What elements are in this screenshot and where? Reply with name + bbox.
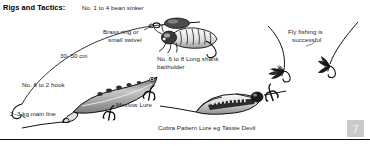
dry-fly-illustration	[318, 22, 358, 78]
label-main-line: 2–3 kg main line	[10, 110, 56, 118]
label-brass-ring-line1: Brass ring or	[103, 28, 139, 36]
label-brass-ring-line2: small swivel	[108, 36, 142, 44]
cobra-lure-illustration	[160, 83, 286, 115]
footer-rule	[0, 139, 370, 140]
label-cobra-lure: Cobra Pattern Lure eg Tassie Devil	[158, 124, 256, 132]
label-baitholder-line1: No. 6 to 8 Long shank	[157, 55, 219, 63]
label-leader-length: 30–50 cm	[60, 52, 88, 60]
page-number-badge: 7	[347, 120, 364, 137]
label-fly-fishing-line2: successful	[292, 36, 321, 44]
label-baitholder-line2: baitholder	[157, 63, 185, 71]
rigs-and-tactics-figure: Rigs and Tactics:	[0, 0, 370, 146]
label-bean-sinker: No. 1 to 4 bean sinker	[82, 4, 144, 12]
label-fly-fishing-line1: Fly fishing is	[288, 28, 323, 36]
label-minnow-lure: Minnow Lure	[116, 101, 152, 109]
bean-sinker-illustration	[160, 18, 200, 28]
label-hook-6-to-2: No. 6 to 2 hook	[22, 81, 65, 89]
grub-bait-illustration	[154, 25, 217, 58]
wet-fly-illustration	[268, 26, 290, 82]
